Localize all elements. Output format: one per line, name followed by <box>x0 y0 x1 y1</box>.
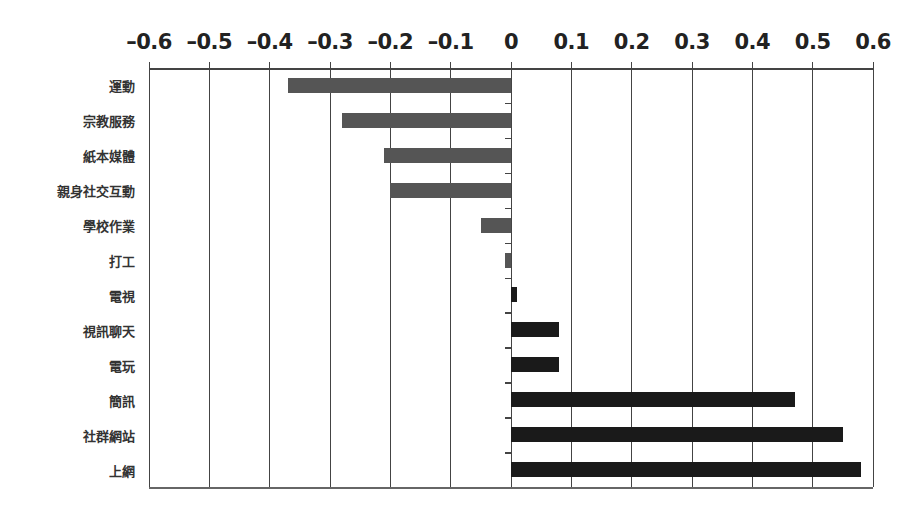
x-tick-label: 0.1 <box>553 30 589 54</box>
bar-10 <box>511 392 795 407</box>
gridline <box>209 68 210 487</box>
category-tick <box>505 417 511 419</box>
bar-9 <box>511 357 559 372</box>
bar-6 <box>505 253 511 268</box>
gridline <box>873 68 874 487</box>
gridline <box>450 68 451 487</box>
bar-11 <box>511 427 843 442</box>
bar-7 <box>511 287 517 302</box>
gridline <box>812 68 813 487</box>
category-tick <box>505 452 511 454</box>
bar-3 <box>384 148 511 163</box>
gridline <box>390 68 391 487</box>
gridline <box>330 68 331 487</box>
x-tick-label: –0.5 <box>186 30 232 54</box>
plot-bottom-border <box>149 487 873 489</box>
x-tick-label: –0.1 <box>428 30 474 54</box>
gridline <box>269 68 270 487</box>
x-tick-label: 0.6 <box>855 30 891 54</box>
category-tick <box>505 138 511 140</box>
x-tick-label: 0.4 <box>734 30 770 54</box>
category-tick <box>505 278 511 280</box>
x-tick-label: 0 <box>504 30 518 54</box>
x-tick-label: –0.3 <box>307 30 353 54</box>
x-tick-label: –0.2 <box>367 30 413 54</box>
category-label: 電視 <box>109 285 135 304</box>
bar-2 <box>342 113 511 128</box>
category-label: 學校作業 <box>83 216 135 235</box>
category-label: 上網 <box>109 460 135 479</box>
bar-5 <box>481 218 511 233</box>
gridline <box>571 68 572 487</box>
diverging-bar-chart: –0.6–0.5–0.4–0.3–0.2–0.100.10.20.30.40.5… <box>0 0 905 515</box>
category-tick <box>505 382 511 384</box>
x-tick-label: 0.3 <box>674 30 710 54</box>
category-label: 親身社交互動 <box>57 181 135 200</box>
gridline <box>692 68 693 487</box>
category-label: 視訊聊天 <box>83 320 135 339</box>
bar-4 <box>390 183 511 198</box>
category-tick <box>505 208 511 210</box>
category-tick <box>505 347 511 349</box>
bar-1 <box>288 78 511 93</box>
x-tick-label: 0.5 <box>795 30 831 54</box>
category-label: 宗教服務 <box>83 111 135 130</box>
category-label: 電玩 <box>109 355 135 374</box>
category-tick <box>505 173 511 175</box>
category-label: 簡訊 <box>109 390 135 409</box>
category-label: 社群網站 <box>83 425 135 444</box>
x-tick-label: 0.2 <box>614 30 650 54</box>
category-label: 運動 <box>109 76 135 95</box>
x-tick-label: –0.6 <box>126 30 172 54</box>
gridline <box>631 68 632 487</box>
gridline <box>752 68 753 487</box>
bar-12 <box>511 462 861 477</box>
category-tick <box>505 103 511 105</box>
category-tick <box>505 243 511 245</box>
x-tick-label: –0.4 <box>247 30 293 54</box>
gridline <box>149 68 150 487</box>
category-tick <box>505 312 511 314</box>
category-label: 打工 <box>109 251 135 270</box>
category-label: 紙本媒體 <box>83 146 135 165</box>
bar-8 <box>511 322 559 337</box>
